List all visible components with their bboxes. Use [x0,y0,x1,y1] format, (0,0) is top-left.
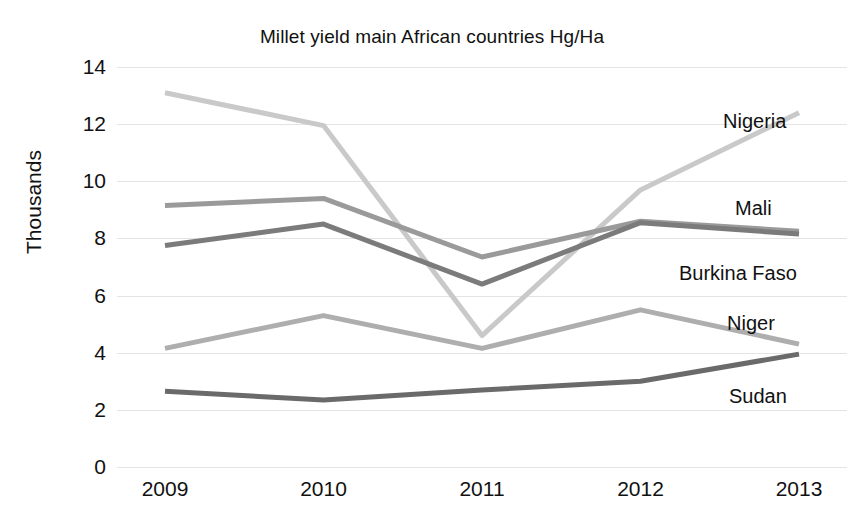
y-tick-label: 10 [46,170,106,191]
chart-container: Millet yield main African countries Hg/H… [0,0,864,526]
x-tick-label: 2010 [264,478,384,499]
y-tick-label: 4 [46,342,106,363]
x-tick-label: 2013 [739,478,859,499]
x-axis-tick-labels: 20092010201120122013 [117,478,847,508]
y-tick-label: 12 [46,113,106,134]
gridline [117,467,847,468]
y-tick-label: 2 [46,399,106,420]
series-line [165,354,799,400]
y-tick-label: 14 [46,56,106,77]
series-line [165,93,799,336]
series-label-niger: Niger [727,313,775,333]
y-tick-label: 8 [46,227,106,248]
chart-title: Millet yield main African countries Hg/H… [0,26,864,48]
series-label-sudan: Sudan [729,386,787,406]
y-tick-label: 6 [46,285,106,306]
x-tick-label: 2009 [105,478,225,499]
series-line [165,310,799,349]
series-label-mali: Mali [735,198,772,218]
x-tick-label: 2012 [581,478,701,499]
series-label-nigeria: Nigeria [723,111,786,131]
series-label-burkina-faso: Burkina Faso [679,263,797,283]
x-tick-label: 2011 [422,478,542,499]
y-axis-tick-labels: 02468101214 [34,67,106,467]
y-tick-label: 0 [46,456,106,477]
